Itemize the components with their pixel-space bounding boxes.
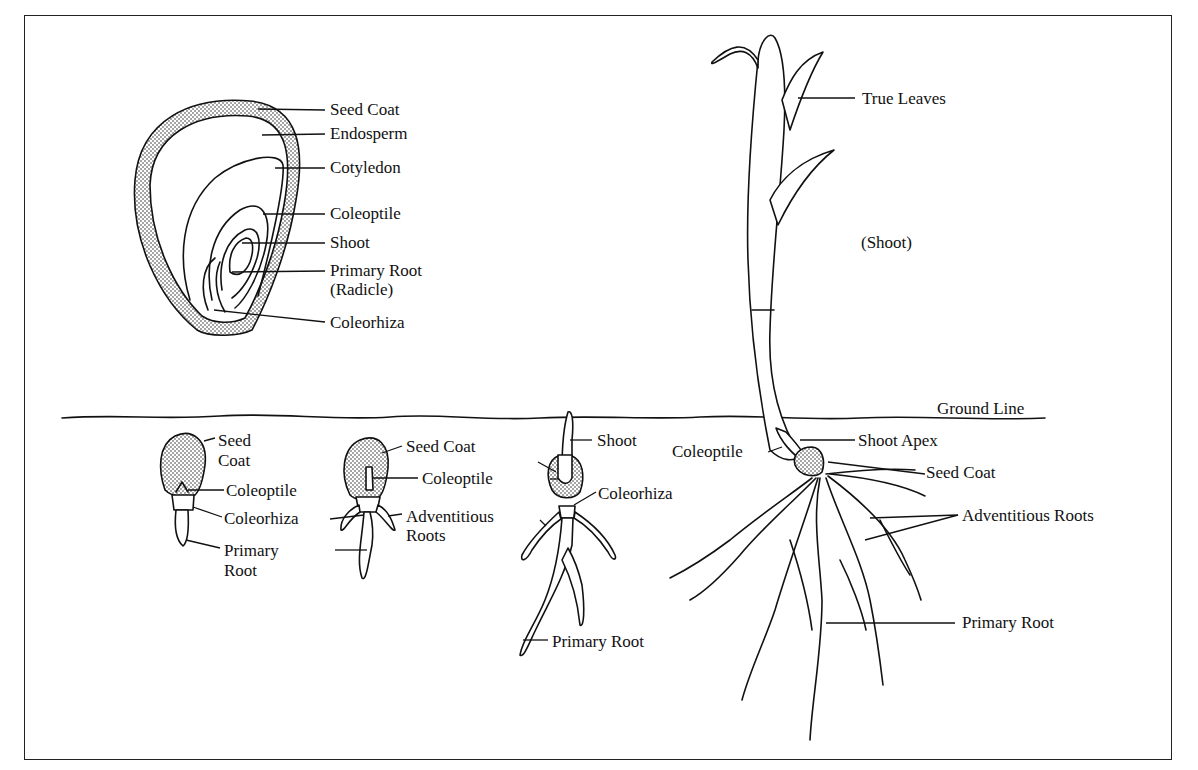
label-radicle: (Radicle) [330,280,393,299]
label-adventitious-roots: Adventitious Roots [962,506,1094,525]
label-primary-root: Primary Root [330,261,422,280]
label-s1-coleorhiza: Coleorhiza [224,509,299,528]
label-s1-root: Root [224,561,257,580]
label-coleoptile: Coleoptile [330,204,401,223]
germination-stage-1 [161,434,224,548]
germination-illustration [0,0,1198,770]
mature-seedling [670,35,958,740]
ground-line [62,415,1045,419]
label-seedling-coleoptile: Coleoptile [672,442,743,461]
label-s2-seed-coat: Seed Coat [406,437,475,456]
label-seedling-primary-root: Primary Root [962,613,1054,632]
label-s3-primary-root: Primary Root [552,632,644,651]
label-cotyledon: Cotyledon [330,158,401,177]
label-s1-coat: Coat [218,451,250,470]
label-s2-adventitious: Adventitious [406,507,494,526]
label-true-leaves: True Leaves [862,89,946,108]
label-coleorhiza: Coleorhiza [330,313,405,332]
label-seedling-seed-coat: Seed Coat [926,463,995,482]
label-shoot-parenthetical: (Shoot) [861,233,912,252]
label-endosperm: Endosperm [330,124,407,143]
seed-cross-section [134,100,325,335]
label-s2-roots: Roots [406,526,446,545]
label-s3-shoot: Shoot [597,431,637,450]
label-s1-seed: Seed [218,431,251,450]
label-shoot: Shoot [330,233,370,252]
label-s1-coleoptile: Coleoptile [226,481,297,500]
label-s1-primary: Primary [224,541,279,560]
label-ground-line: Ground Line [937,399,1024,418]
label-s3-coleorhiza: Coleorhiza [598,484,673,503]
label-seed-coat: Seed Coat [330,100,399,119]
label-shoot-apex: Shoot Apex [858,431,938,450]
label-s2-coleoptile: Coleoptile [422,469,493,488]
germination-stage-2 [330,438,418,579]
